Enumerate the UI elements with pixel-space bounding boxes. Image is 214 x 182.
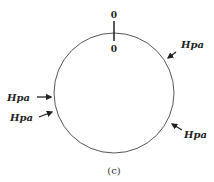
hpa-label-lower-left: Hpa bbox=[9, 112, 33, 123]
origin-label-inner: 0 bbox=[111, 44, 117, 54]
arrow-lower-right bbox=[172, 124, 182, 130]
arrow-upper-right bbox=[168, 52, 176, 58]
ring-diagram: 0 0 Hpa Hpa Hpa Hpa (c) bbox=[0, 0, 214, 182]
figure-caption: (c) bbox=[107, 165, 121, 176]
hpa-label-left: Hpa bbox=[6, 92, 30, 103]
hpa-label-upper-right: Hpa bbox=[180, 39, 204, 50]
arrow-lower-left bbox=[39, 112, 52, 117]
origin-label-outer: 0 bbox=[111, 10, 117, 20]
hpa-label-lower-right: Hpa bbox=[183, 129, 207, 140]
